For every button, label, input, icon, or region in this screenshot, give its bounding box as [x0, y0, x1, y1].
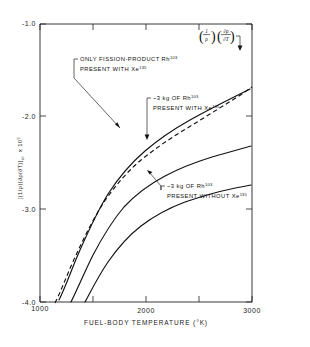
- derivative-paren-close-2: ): [230, 29, 235, 45]
- y-axis-title: [(1/ρ)(∂ρ/∂T)]ol x 105: [16, 136, 25, 199]
- derivative-numerator-1: 1: [205, 28, 208, 34]
- annot-3kg-without-line1: ~3 kg OF Rh103: [167, 182, 213, 189]
- annot-fission-sup1: 103: [170, 55, 178, 60]
- x-axis-title: FUEL-BODY TEMPERATURE (°K): [84, 319, 208, 327]
- annot-3kg-with-line1-text: ~3 kg OF Rh: [153, 95, 191, 101]
- annot-3kg-with-line2-text: PRESENT WITH Xe: [153, 105, 212, 111]
- x-tick-label-2000: 2000: [137, 307, 155, 314]
- annot-fission-bracket: [74, 59, 78, 63]
- annot-only-fission-product: ONLY FISSION-PRODUCT Rh103 PRESENT WITH …: [74, 55, 178, 128]
- annot-3kg-without-arrowhead: [147, 170, 152, 174]
- annot-3kg-with-bracket: [147, 98, 151, 102]
- curve-3kg-without-xe: [85, 185, 251, 302]
- svg-text:[(1/ρ)(∂ρ/∂T)]ol x 105: [(1/ρ)(∂ρ/∂T)]ol x 105: [16, 136, 25, 199]
- annot-3kg-without-leader-line: [149, 172, 161, 190]
- y-axis-title-main: (1/ρ)(∂ρ/∂T): [17, 162, 23, 197]
- y-tick-label-top: -1.0: [22, 20, 36, 27]
- y-axis-title-multiplier: x 10: [17, 139, 23, 152]
- y-tick-label-3: -3.0: [22, 206, 36, 213]
- annot-3kg-with-sup1: 103: [191, 94, 199, 99]
- derivative-paren-open-2: (: [217, 29, 222, 45]
- annot-fission-line1-text: ONLY FISSION-PRODUCT Rh: [80, 56, 170, 62]
- line-chart: -1.0 -2.0 -3.0 -4.0 1000 2000 3000 FUEL-…: [0, 0, 310, 347]
- annot-3kg-with-xe: ~3 kg OF Rh103 PRESENT WITH Xe135: [145, 94, 221, 140]
- annot-derivative-expression: ( 1 ρ ) ( ∂ρ ∂T ): [199, 28, 242, 51]
- annot-3kg-with-line2: PRESENT WITH Xe135: [153, 104, 220, 111]
- x-tick-label-1000: 1000: [31, 305, 49, 312]
- annot-3kg-without-sup2: 135: [240, 192, 248, 197]
- annot-fission-line2-text: PRESENT WITH Xe: [80, 66, 139, 72]
- annot-3kg-with-line1: ~3 kg OF Rh103: [153, 94, 199, 101]
- derivative-numerator-2: ∂ρ: [223, 28, 229, 34]
- derivative-paren-open-1: (: [199, 29, 204, 45]
- annot-3kg-without-xe: ~3 kg OF Rh103 PRESENT WITHOUT Xe135: [147, 170, 248, 199]
- annot-fission-line1: ONLY FISSION-PRODUCT Rh103: [80, 55, 178, 62]
- x-tick-label-3000: 3000: [243, 307, 261, 314]
- annot-3kg-without-line2-text: PRESENT WITHOUT Xe: [167, 193, 240, 199]
- annot-fission-leader-line: [74, 63, 120, 128]
- annot-3kg-without-sup1: 103: [205, 182, 213, 187]
- annot-3kg-with-arrowhead: [145, 135, 150, 140]
- annot-fission-line2: PRESENT WITH Xe135: [80, 65, 147, 72]
- derivative-paren-close-1: ): [211, 29, 216, 45]
- figure-container: -1.0 -2.0 -3.0 -4.0 1000 2000 3000 FUEL-…: [0, 0, 310, 347]
- annot-3kg-with-sup2: 135: [212, 104, 220, 109]
- derivative-denominator-1: ρ: [204, 36, 208, 42]
- annot-fission-sup2: 135: [139, 65, 147, 70]
- annot-3kg-without-bracket: [161, 186, 165, 190]
- derivative-arrowhead: [238, 46, 243, 51]
- y-tick-label-2: -2.0: [22, 113, 36, 120]
- annot-3kg-without-line1-text: ~3 kg OF Rh: [167, 183, 205, 189]
- y-axis-title-exponent: 5: [16, 136, 21, 139]
- annot-3kg-without-line2: PRESENT WITHOUT Xe135: [167, 192, 248, 199]
- derivative-denominator-2: ∂T: [223, 36, 230, 42]
